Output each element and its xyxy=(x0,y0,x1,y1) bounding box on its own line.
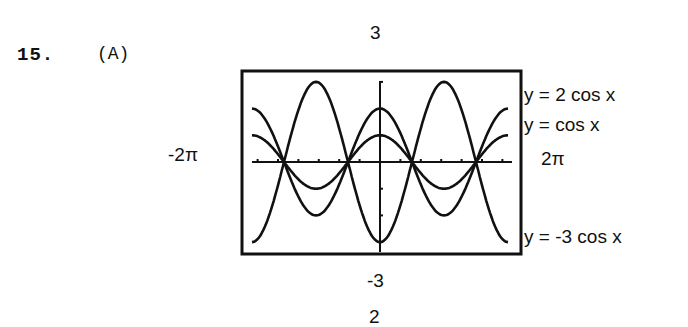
graph-plot xyxy=(0,0,688,322)
